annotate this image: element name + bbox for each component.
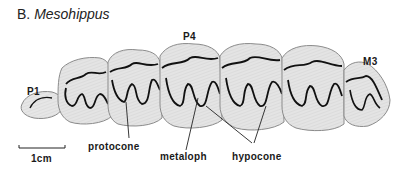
scale-bar-label: 1cm: [31, 153, 52, 164]
label-p1: P1: [27, 86, 40, 97]
tooth-p3: [108, 50, 162, 127]
label-hypocone: hypocone: [232, 151, 282, 162]
tooth-row-illustration: [0, 0, 403, 174]
tooth-m1: [220, 44, 284, 131]
scale-bar: [19, 145, 65, 148]
label-p4: P4: [183, 31, 196, 42]
label-metaloph: metaloph: [160, 151, 207, 162]
tooth-m3: [344, 62, 390, 127]
tooth-p4: [160, 44, 222, 129]
tooth-m2: [282, 46, 344, 131]
label-protocone: protocone: [88, 141, 140, 152]
label-m3: M3: [363, 56, 378, 67]
tooth-p2: [58, 57, 112, 124]
